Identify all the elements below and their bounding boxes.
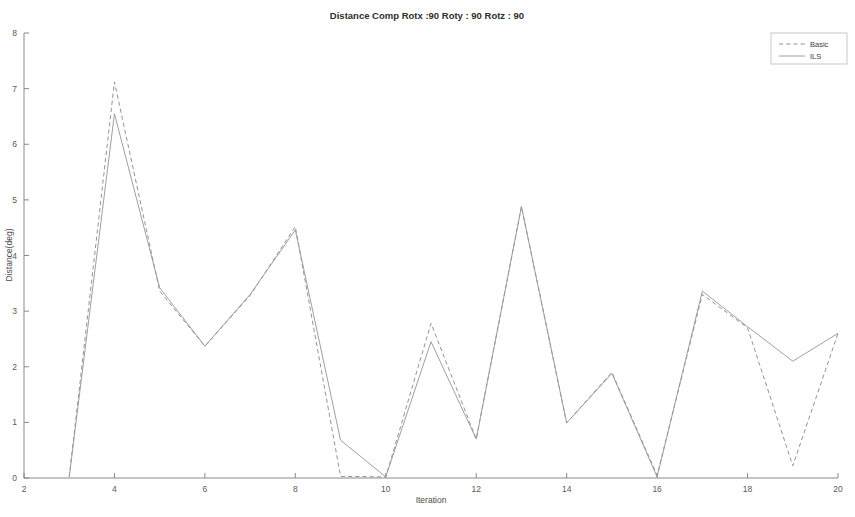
x-tick-label: 14 bbox=[562, 484, 572, 494]
x-tick-label: 20 bbox=[833, 484, 843, 494]
x-tick-label: 18 bbox=[743, 484, 753, 494]
x-tick-label: 12 bbox=[471, 484, 481, 494]
series-line-ils bbox=[69, 114, 838, 477]
y-tick-label: 5 bbox=[12, 195, 17, 205]
y-tick-label: 2 bbox=[12, 362, 17, 372]
x-tick-label: 16 bbox=[652, 484, 662, 494]
x-tick-label: 10 bbox=[381, 484, 391, 494]
y-tick-label: 3 bbox=[12, 306, 17, 316]
y-tick-label: 8 bbox=[12, 28, 17, 38]
chart-series-layer bbox=[69, 82, 838, 477]
chart-legend: BasicILS bbox=[771, 33, 847, 64]
x-tick-label: 4 bbox=[112, 484, 117, 494]
legend-label-basic: Basic bbox=[810, 40, 829, 49]
legend-label-ils: ILS bbox=[810, 52, 821, 61]
chart-figure: Distance Comp Rotx :90 Roty : 90 Rotz : … bbox=[0, 0, 855, 517]
y-axis-label: Distance(deg) bbox=[4, 228, 14, 281]
x-tick-label: 8 bbox=[293, 484, 298, 494]
x-tick-label: 2 bbox=[22, 484, 27, 494]
y-tick-label: 7 bbox=[12, 84, 17, 94]
y-axis-ticks: 012345678 bbox=[12, 28, 29, 483]
legend-background bbox=[771, 33, 847, 64]
series-line-basic bbox=[69, 82, 838, 477]
y-tick-label: 0 bbox=[12, 473, 17, 483]
y-tick-label: 1 bbox=[12, 417, 17, 427]
x-axis-label: Iteration bbox=[416, 495, 447, 505]
x-axis-ticks: 2468101214161820 bbox=[22, 473, 843, 494]
chart-title: Distance Comp Rotx :90 Roty : 90 Rotz : … bbox=[330, 10, 524, 21]
x-tick-label: 6 bbox=[203, 484, 208, 494]
y-tick-label: 6 bbox=[12, 139, 17, 149]
